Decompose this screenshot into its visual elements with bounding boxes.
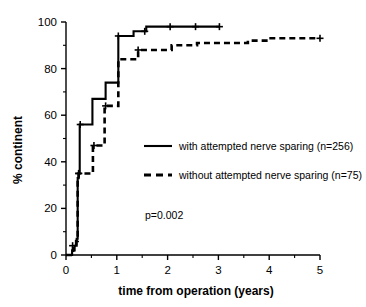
y-tick-label: 20: [44, 202, 57, 214]
x-tick-label: 3: [215, 264, 221, 276]
x-tick-label: 4: [266, 264, 273, 276]
legend-label-with-nerve-sparing: with attempted nerve sparing (n=256): [178, 140, 353, 152]
y-tick-label: 100: [38, 16, 57, 28]
kaplan-meier-chart: 020406080100 012345 % continent time fro…: [0, 0, 366, 307]
chart-figure: 020406080100 012345 % continent time fro…: [0, 0, 366, 307]
y-tick-label: 0: [51, 249, 57, 261]
y-tick-label: 60: [44, 109, 57, 121]
y-tick-label: 80: [44, 63, 57, 75]
x-tick-label: 5: [317, 264, 323, 276]
p-value-annotation: p=0.002: [145, 209, 183, 221]
x-tick-label: 1: [114, 264, 120, 276]
x-tick-label: 2: [164, 264, 170, 276]
legend-label-without-nerve-sparing: without attempted nerve sparing (n=75): [178, 169, 362, 181]
x-axis-title: time from operation (years): [118, 284, 273, 298]
y-axis-title: % continent: [11, 116, 25, 184]
y-tick-label: 40: [44, 156, 57, 168]
x-tick-label: 0: [63, 264, 69, 276]
